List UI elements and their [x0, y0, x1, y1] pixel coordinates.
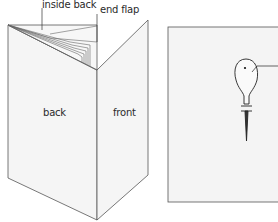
front-panel	[97, 20, 148, 220]
page-with-awl	[168, 27, 278, 202]
page-panel	[168, 27, 278, 202]
label-front: front	[113, 107, 136, 118]
label-back: back	[43, 107, 66, 118]
label-end-flap: end flap	[100, 4, 139, 15]
diagram-canvas	[0, 0, 278, 222]
label-inside-back: inside back	[42, 0, 96, 10]
